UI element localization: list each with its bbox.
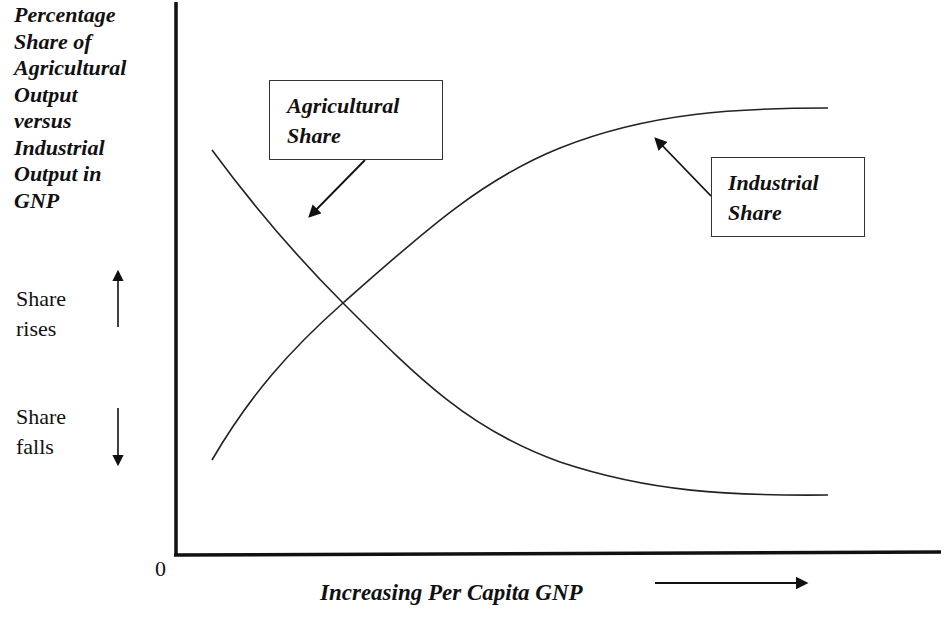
industrial-pointer-arrow-icon [656,139,711,196]
industrial-share-callout: Industrial Share [711,157,865,237]
chart-canvas [0,0,947,618]
x-axis [174,552,941,555]
agricultural-pointer-arrow-icon [310,160,365,216]
agricultural-share-callout: Agricultural Share [269,80,443,160]
